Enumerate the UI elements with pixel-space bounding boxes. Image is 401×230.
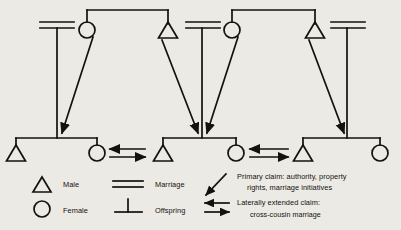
sibling-bar-child-3 bbox=[303, 138, 380, 146]
sibling-bar-child-1 bbox=[16, 138, 97, 146]
legend-circle-icon bbox=[34, 201, 50, 217]
male-child-3 bbox=[294, 145, 313, 161]
lateral-claim-arrows-1 bbox=[110, 149, 145, 157]
legend-primary-claim-line2: rights, marriage initiatives bbox=[247, 183, 332, 192]
female-parent-b bbox=[224, 22, 240, 38]
legend-tee-icon bbox=[115, 199, 142, 212]
primary-claim-arrow-3 bbox=[207, 37, 238, 133]
kinship-diagram: Male Female Marriage Offspring Primary c… bbox=[0, 0, 401, 230]
lateral-claim-arrows-2 bbox=[250, 149, 288, 157]
sibling-bar-parent-b bbox=[232, 10, 315, 24]
legend-diagonal-arrow-icon bbox=[206, 174, 226, 195]
marriage-symbol-c bbox=[331, 22, 365, 28]
legend-lateral-claim-line2: cross-cousin marriage bbox=[250, 211, 321, 219]
legend-label-male: Male bbox=[63, 180, 79, 189]
diagram-canvas: Male Female Marriage Offspring Primary c… bbox=[0, 0, 401, 230]
legend-lateral-claim-line1: Laterally extended claim: bbox=[237, 198, 320, 207]
female-child-2 bbox=[228, 145, 244, 161]
legend-triangle-icon bbox=[33, 177, 51, 192]
primary-claim-arrow-4 bbox=[309, 40, 344, 133]
legend-double-line-icon bbox=[113, 181, 143, 187]
legend-label-marriage: Marriage bbox=[155, 180, 185, 189]
female-child-1 bbox=[89, 145, 105, 161]
legend-primary-claim-line1: Primary claim: authority, property bbox=[237, 172, 347, 181]
male-child-2 bbox=[154, 145, 173, 161]
marriage-symbol-a bbox=[40, 22, 74, 28]
primary-claim-arrow-2 bbox=[162, 40, 198, 133]
primary-claim-arrow-1 bbox=[62, 37, 93, 133]
marriage-symbol-b bbox=[186, 22, 220, 28]
female-child-3 bbox=[372, 145, 388, 161]
female-parent-a bbox=[79, 22, 95, 38]
legend-label-female: Female bbox=[63, 206, 88, 215]
legend-double-arrow-icon bbox=[205, 203, 229, 212]
sibling-bar-parent-a bbox=[87, 10, 168, 24]
male-child-1 bbox=[7, 145, 26, 161]
legend-label-offspring: Offspring bbox=[155, 206, 185, 215]
sibling-bar-child-2 bbox=[163, 138, 236, 146]
